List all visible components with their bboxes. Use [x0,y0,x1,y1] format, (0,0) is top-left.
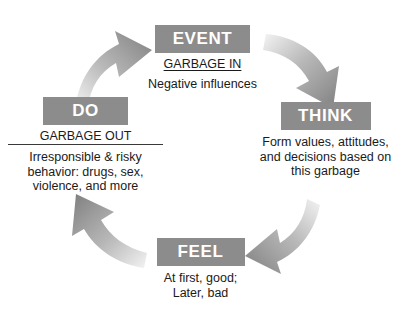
node-do-label: DO [43,97,128,125]
node-feel-label: FEEL [157,238,245,266]
node-think-description: Form values, attitudes, and decisions ba… [252,135,399,179]
node-do: DO GARBAGE OUT Irresponsible & risky beh… [8,97,163,194]
node-event: EVENT GARBAGE IN Negative influences [131,25,274,92]
cycle-diagram: EVENT GARBAGE IN Negative influences THI… [0,0,399,322]
node-think: THINK Form values, attitudes, and decisi… [252,102,399,179]
node-feel-description: At first, good; Later, bad [135,271,266,300]
node-feel: FEEL At first, good; Later, bad [135,238,266,300]
node-event-description: Negative influences [131,77,274,92]
node-event-label: EVENT [155,25,250,53]
node-do-subtitle: GARBAGE OUT [8,129,163,145]
node-event-subtitle: GARBAGE IN [131,57,274,72]
arrow-event-to-think [263,34,339,108]
node-event-subtitle-text: GARBAGE IN [164,57,242,71]
node-do-description: Irresponsible & risky behavior: drugs, s… [8,150,163,194]
node-think-label: THINK [281,102,371,130]
